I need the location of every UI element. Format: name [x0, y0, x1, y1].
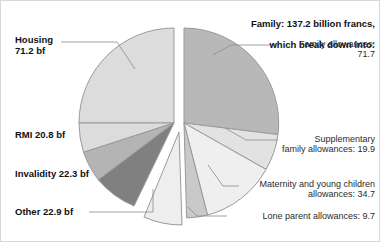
- label-family-allowances: Family allowances: 71.7: [205, 39, 375, 59]
- label-housing: Housing 71.2 bf: [15, 35, 85, 56]
- chart-figure: Family: 137.2 billion francs, which brea…: [0, 0, 380, 242]
- label-supplementary-family-allowances: Supplementary family allowances: 19.9: [205, 134, 375, 154]
- chart-title-line1: Family: 137.2 billion francs,: [251, 18, 375, 29]
- label-invalidity: Invalidity 22.3 bf: [15, 169, 125, 180]
- pie-left-half: [79, 28, 182, 225]
- label-rmi: RMI 20.8 bf: [15, 130, 115, 141]
- label-maternity-allowances: Maternity and young children allowances:…: [205, 179, 375, 199]
- label-lone-parent-allowances: Lone parent allowances: 9.7: [205, 211, 375, 221]
- label-other: Other 22.9 bf: [15, 207, 115, 218]
